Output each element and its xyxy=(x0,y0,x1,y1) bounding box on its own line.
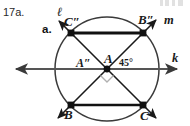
label-point-b-double-prime: B″ xyxy=(138,13,154,26)
label-line-m: m xyxy=(164,14,174,27)
label-point-b: B xyxy=(64,108,73,121)
label-point-a: A xyxy=(104,52,113,65)
figure-canvas: 17a. a. ℓ C″ B″ m k A″ A 45° B C xyxy=(0,0,190,126)
label-point-a-double-prime: A″ xyxy=(76,57,91,69)
label-line-ell: ℓ xyxy=(57,6,62,19)
label-point-c: C xyxy=(140,109,149,122)
label-line-k: k xyxy=(172,52,178,65)
label-angle-45: 45° xyxy=(119,58,133,68)
geometry-diagram xyxy=(0,0,190,126)
vertex-A-center xyxy=(104,66,111,73)
cropped-text-artifact xyxy=(160,0,186,6)
exercise-number: 17a. xyxy=(3,7,24,18)
part-label-a: a. xyxy=(42,24,52,36)
right-angle-mark xyxy=(101,76,114,83)
vertex-C-double-prime xyxy=(68,30,75,37)
label-point-c-double-prime: C″ xyxy=(64,15,80,28)
vertex-B-double-prime xyxy=(140,30,147,37)
